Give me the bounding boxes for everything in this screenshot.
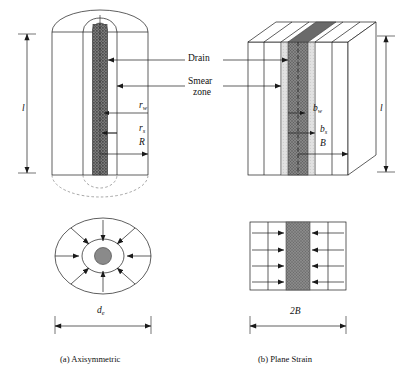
twoB-label: 2B <box>290 307 301 317</box>
B-label: B <box>320 139 326 149</box>
plan-arrow-se <box>117 268 135 284</box>
smear-label-line1: Smear <box>188 77 212 87</box>
de-dimension <box>55 316 151 334</box>
rw-label: rw <box>139 101 147 111</box>
cylinder-bottom-hidden-arc <box>52 175 148 197</box>
bs-label: bs <box>320 125 327 135</box>
bw-label: bw <box>313 104 322 114</box>
smear-label-line2: zone <box>193 88 211 98</box>
caption-axisymmetric: (a) Axisymmetric <box>60 355 120 364</box>
prism-right-face <box>348 22 376 175</box>
2B-dimension <box>250 316 346 334</box>
drain-label: Drain <box>188 54 210 64</box>
rs-label: rs <box>139 124 145 134</box>
plan-arrow-sw <box>71 268 89 284</box>
plane-strain-plan-view <box>250 222 346 290</box>
R-label: R <box>139 138 145 148</box>
axisym-plan-view <box>55 218 151 294</box>
plan-arrow-ne <box>117 228 135 244</box>
axisym-height-label: l <box>22 104 25 114</box>
plane-strain-height-label: l <box>380 104 383 114</box>
plan-drain-core <box>95 248 112 265</box>
figure-root: l rw rs R Drain Smear zone bw bs B l de … <box>0 0 403 383</box>
caption-plane-strain: (b) Plane Strain <box>258 355 312 364</box>
smear-bottom-hidden-arc <box>83 175 117 188</box>
plan-arrow-nw <box>71 228 89 244</box>
de-label: de <box>97 306 105 316</box>
plane-strain-prism <box>248 22 376 175</box>
axisym-height-dimension <box>18 34 36 173</box>
plan-drain-band <box>286 222 310 290</box>
axisymmetric-cylinder <box>52 10 148 197</box>
